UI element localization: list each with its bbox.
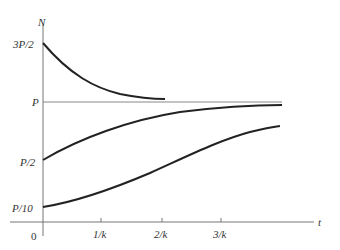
y-tick-P10: P/10 xyxy=(11,202,33,214)
y-tick-3P2: 3P/2 xyxy=(12,38,34,50)
y-tick-P: P xyxy=(31,96,39,108)
origin-label: 0 xyxy=(31,230,37,242)
x-tick-label-2k: 2/k xyxy=(154,228,169,240)
x-tick-label-1k: 1/k xyxy=(93,228,108,240)
y-tick-P2: P/2 xyxy=(19,156,36,168)
x-tick-label-3k: 3/k xyxy=(212,228,228,240)
curve-P10 xyxy=(43,126,280,207)
y-axis-label: N xyxy=(37,16,46,28)
curve-3P2 xyxy=(43,43,165,99)
x-axis-label: t xyxy=(318,216,322,228)
logistic-growth-chart: N t 0 3P/2 P P/2 P/10 1/k 2/k 3/k xyxy=(0,0,340,250)
